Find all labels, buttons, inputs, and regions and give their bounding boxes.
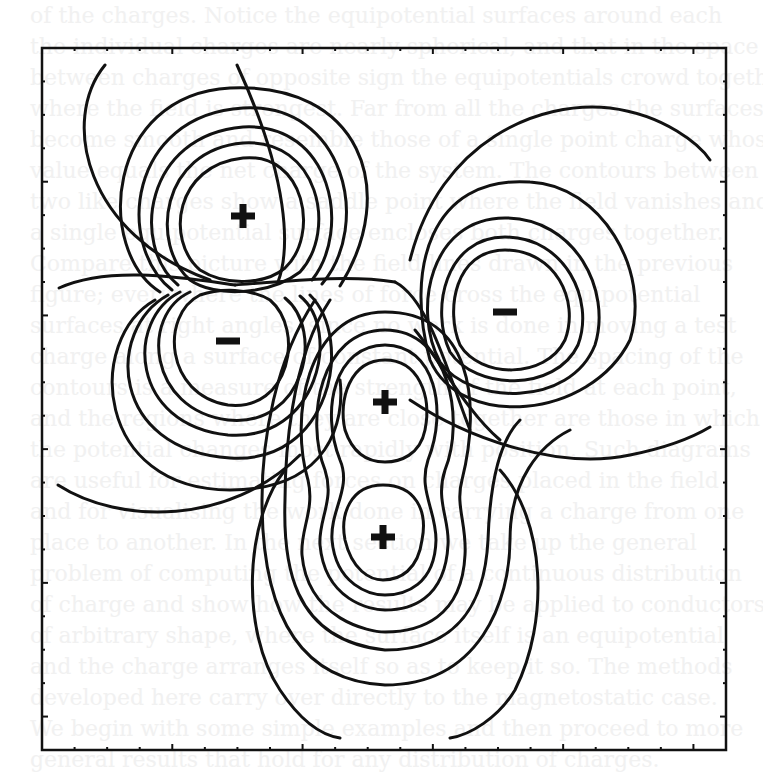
positive-charge-icon: [373, 390, 397, 414]
contour-q45-outer: [252, 470, 340, 738]
contour-q3-outer-bottom: [410, 400, 710, 459]
equipotential-diagram: [0, 0, 763, 784]
contour-q2-2: [159, 292, 305, 420]
contour-q2-1: [174, 290, 288, 405]
contour-q2-3: [145, 292, 320, 435]
positive-charge-icon: [231, 204, 255, 228]
negative-charge-icon: [493, 309, 517, 316]
contour-q3-4: [421, 182, 635, 407]
contour-q45-outer-right: [450, 470, 538, 738]
negative-charge-icon: [216, 338, 240, 345]
contour-q1-outer-right: [237, 65, 284, 282]
positive-charge-icon: [371, 525, 395, 549]
contour-q45-2: [317, 330, 454, 610]
